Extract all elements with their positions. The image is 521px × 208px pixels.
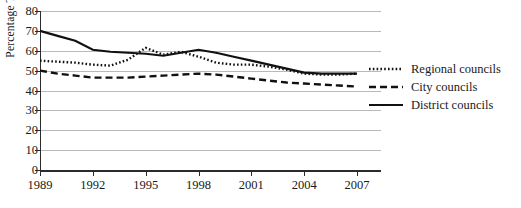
x-tick-mark: [304, 171, 305, 176]
x-tick-mark: [40, 171, 41, 176]
series-line-dotted: [40, 48, 357, 75]
x-tick-label: 1995: [124, 178, 168, 193]
legend-label: Regional councils: [411, 62, 501, 77]
legend-label: City councils: [411, 80, 477, 95]
series-line-solid: [40, 31, 357, 74]
legend-item[interactable]: District councils: [368, 96, 521, 114]
legend-item[interactable]: Regional councils: [368, 60, 521, 78]
x-axis-line: [40, 170, 381, 172]
x-tick-label: 1998: [177, 178, 221, 193]
x-tick-mark: [251, 171, 252, 176]
x-tick-mark: [199, 171, 200, 176]
x-tick-label: 2004: [282, 178, 326, 193]
series-lines: [40, 11, 357, 170]
y-axis-tick-labels: 01020304050607080: [8, 0, 38, 208]
legend-item[interactable]: City councils: [368, 78, 521, 96]
x-tick-label: 1989: [18, 178, 62, 193]
plot-area: [40, 11, 357, 170]
y-tick-mark: [35, 31, 40, 32]
y-tick-mark: [35, 11, 40, 12]
chart-container: Percentage Turnout 01020304050607080 198…: [0, 0, 521, 208]
y-tick-mark: [35, 51, 40, 52]
x-tick-label: 2007: [335, 178, 379, 193]
legend-label: District councils: [411, 98, 493, 113]
y-tick-mark: [35, 110, 40, 111]
legend-swatch-dashed: [368, 82, 404, 92]
x-tick-mark: [146, 171, 147, 176]
y-tick-mark: [35, 130, 40, 131]
y-tick-mark: [35, 150, 40, 151]
y-tick-mark: [35, 91, 40, 92]
legend-swatch-solid: [368, 100, 404, 110]
x-tick-mark: [357, 171, 358, 176]
chart-legend: Regional councilsCity councilsDistrict c…: [368, 60, 521, 114]
x-tick-mark: [93, 171, 94, 176]
x-tick-label: 1992: [71, 178, 115, 193]
x-tick-label: 2001: [229, 178, 273, 193]
y-tick-mark: [35, 71, 40, 72]
legend-swatch-dotted: [368, 64, 404, 74]
